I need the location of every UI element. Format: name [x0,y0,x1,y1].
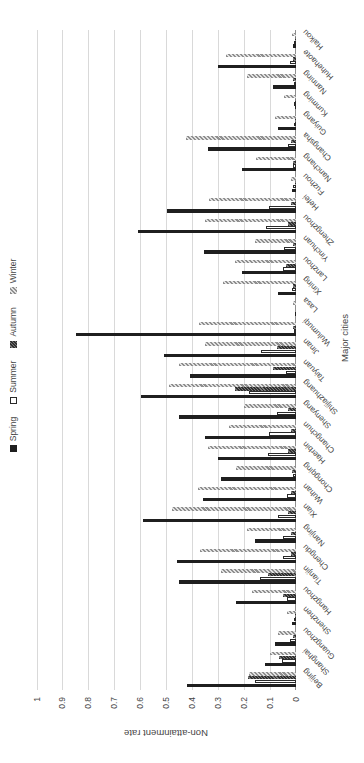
bar-guangzhou-spring [275,642,296,645]
bar-haikou-summer [294,41,296,44]
bar-xining-summer [292,288,296,291]
bar-changchun-autumn [291,429,296,432]
bar-wulumuqi-winter [199,322,296,325]
value-axis-title: Non-attainment rate [124,728,208,739]
bar-taiyuan-spring [190,374,296,377]
category-label-lasa: Lasa [301,296,320,315]
bar-beijing-spring [187,684,296,687]
bar-xian-spring [143,519,296,522]
bar-kunming-winter [284,95,296,98]
legend-marker-summer-icon [10,397,17,404]
screenshot-stage: SpringSummerAutumnWinter 00.10.20.30.40.… [0,0,364,763]
bar-beijing-winter [249,673,296,676]
bar-shanghai-winter [270,652,296,655]
bar-yinchuan-summer [284,247,296,250]
bar-jinan-summer [261,350,296,353]
bar-guangzhou-autumn [293,635,296,638]
bar-shenzhen-autumn [295,614,296,617]
value-tick-label-0: 0 [291,697,302,735]
bar-kunming-summer [294,102,296,105]
bar-shijiazhuang-autumn [235,387,296,390]
bar-lanzhou-autumn [286,264,296,267]
gridline-0.2 [244,30,245,690]
bar-guiyang-spring [278,127,296,130]
legend-marker-winter-icon [10,287,17,294]
bar-kunming-autumn [295,99,296,102]
bar-wuhan-winter [198,487,296,490]
bar-hangzhou-summer [287,597,296,600]
bar-taiyuan-winter [179,363,296,366]
bar-chongqing-winter [236,466,296,469]
bar-wulumuqi-summer [294,329,296,332]
bar-shijiazhuang-spring [141,395,296,398]
legend-item-autumn: Autumn [9,307,18,347]
bar-zhengzhou-spring [138,230,296,233]
bar-nanning-autumn [293,78,296,81]
gridline-0.6 [140,30,141,690]
value-tick-label-0.7: 0.7 [109,697,120,735]
gridline-0.8 [88,30,89,690]
bar-shenzhen-winter [287,611,296,614]
value-tick-label-0.2: 0.2 [239,697,250,735]
bar-nanchang-winter [256,157,296,160]
value-tick-label-0.8: 0.8 [83,697,94,735]
bar-nanjing-spring [255,539,296,542]
legend-label-spring: Spring [9,417,18,442]
bar-haerbin-spring [218,457,296,460]
bar-lanzhou-winter [235,260,296,263]
bar-fuzhou-summer [293,185,296,188]
bar-guiyang-autumn [295,119,296,122]
chart-legend: SpringSummerAutumnWinter [9,0,18,763]
category-label-xian: Xian [301,502,319,520]
bar-hangzhou-winter [252,590,296,593]
bar-hefei-spring [167,209,297,212]
bar-wulumuqi-autumn [293,326,296,329]
bar-xining-winter [223,281,296,284]
value-tick-label-1: 1 [32,697,43,735]
bar-nanning-winter [247,74,296,77]
bar-guiyang-summer [294,123,296,126]
bar-wulumuqi-spring [76,333,296,336]
plot-area [37,30,296,690]
gridline-0.5 [166,30,167,690]
bar-hefei-autumn [291,202,296,205]
bar-chengdu-summer [283,556,296,559]
legend-label-autumn: Autumn [9,307,18,336]
bar-hangzhou-spring [236,601,296,604]
bar-nanjing-winter [247,528,296,531]
bar-huhehaote-spring [218,65,296,68]
bar-taiyuan-autumn [273,367,296,370]
bar-haikou-winter [292,33,296,36]
bar-xining-autumn [293,284,296,287]
bar-huhehaote-autumn [293,57,296,60]
bar-haerbin-winter [208,446,296,449]
legend-label-winter: Winter [9,259,18,284]
bar-tianjin-autumn [268,573,296,576]
bar-hefei-summer [269,206,296,209]
category-label-haikou: Haikou [301,27,325,51]
bar-lasa-spring [295,312,296,315]
gridline-0.4 [192,30,193,690]
bar-nanning-spring [273,85,296,88]
bar-changsha-winter [186,136,296,139]
value-tick-label-0.3: 0.3 [213,697,224,735]
bar-chengdu-winter [200,549,296,552]
bar-hefei-winter [209,198,296,201]
bar-wuhan-autumn [291,491,296,494]
bar-chongqing-summer [293,474,296,477]
bar-nanchang-autumn [293,161,296,164]
bar-nanjing-summer [283,536,296,539]
bar-guangzhou-winter [278,631,296,634]
bar-tianjin-winter [221,569,296,572]
bar-shanghai-spring [265,663,296,666]
bar-lasa-winter [293,301,296,304]
bar-jinan-spring [164,354,296,357]
bar-tianjin-summer [260,577,296,580]
bar-huhehaote-summer [290,61,296,64]
bar-shenyang-winter [244,404,296,407]
bar-beijing-autumn [248,676,296,679]
gridline-0.7 [114,30,115,690]
bar-shanghai-summer [282,659,296,662]
bar-hangzhou-autumn [283,594,296,597]
bar-shijiazhuang-winter [169,384,296,387]
